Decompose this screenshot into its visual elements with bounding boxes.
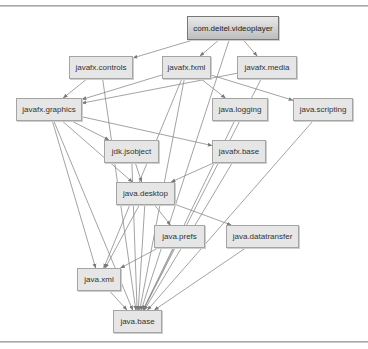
node-javafx-fxml[interactable]: javafx.fxml: [162, 56, 211, 79]
edge-controls-to-graphics: [63, 79, 87, 98]
node-javafx-graphics[interactable]: javafx.graphics: [16, 98, 82, 121]
edge-desktop-to-base: [138, 205, 145, 310]
node-jdk-jsobject[interactable]: jdk.jsobject: [104, 140, 159, 163]
edge-xml-to-base: [110, 291, 127, 310]
edge-fxbase-to-desktop: [171, 163, 213, 182]
edge-root-to-base: [141, 40, 229, 310]
edge-desktop-to-datatransfer: [175, 204, 231, 225]
edge-root-to-fxml: [200, 40, 219, 56]
node-javafx-controls[interactable]: javafx.controls: [69, 56, 133, 79]
node-javafx-media[interactable]: javafx.media: [237, 56, 297, 79]
edge-jsobject-to-desktop: [135, 163, 141, 182]
dependency-edges: [0, 0, 368, 349]
edge-root-to-media: [243, 40, 257, 56]
node-label: jdk.jsobject: [112, 147, 152, 156]
node-label: java.scripting: [300, 105, 347, 114]
node-label: java.xml: [84, 275, 113, 284]
edge-datatransfer-to-base: [154, 248, 245, 310]
node-label: javafx.fxml: [168, 63, 206, 72]
node-label: java.datatransfer: [233, 232, 293, 241]
node-java-prefs[interactable]: java.prefs: [154, 225, 205, 248]
node-java-base[interactable]: java.base: [113, 310, 162, 333]
node-java-logging[interactable]: java.logging: [212, 98, 268, 121]
edge-fxml-to-logging: [201, 79, 225, 98]
node-label: javafx.base: [219, 147, 259, 156]
node-label: java.base: [120, 317, 154, 326]
node-java-datatransfer[interactable]: java.datatransfer: [226, 225, 299, 248]
node-java-scripting[interactable]: java.scripting: [293, 98, 353, 121]
node-label: javafx.controls: [75, 63, 126, 72]
edge-graphics-to-xml: [52, 121, 95, 268]
node-javafx-base[interactable]: javafx.base: [212, 140, 266, 163]
edge-prefs-to-xml: [121, 248, 158, 268]
node-label: java.logging: [219, 105, 262, 114]
node-java-xml[interactable]: java.xml: [77, 268, 121, 291]
node-java-desktop[interactable]: java.desktop: [116, 182, 175, 205]
node-label: javafx.media: [245, 63, 290, 72]
node-label: javafx.graphics: [22, 105, 75, 114]
node-com-deitel-videoplayer[interactable]: com.deitel.videoplayer: [187, 16, 279, 40]
node-label: com.deitel.videoplayer: [193, 24, 273, 33]
node-label: java.prefs: [162, 232, 197, 241]
node-label: java.desktop: [123, 189, 168, 198]
edge-graphics-to-jsobject: [72, 121, 109, 140]
